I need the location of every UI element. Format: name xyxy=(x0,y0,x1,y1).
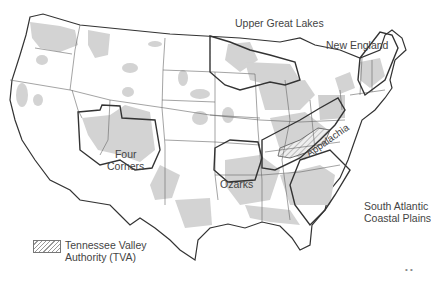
label-upper-great-lakes: Upper Great Lakes xyxy=(235,17,324,29)
legend-hatch-swatch xyxy=(33,240,61,253)
footer-mark: • • xyxy=(405,264,413,276)
legend-line1: Tennessee Valley xyxy=(65,239,147,251)
label-four-corners-line1: Four xyxy=(107,148,144,160)
label-ozarks: Ozarks xyxy=(220,178,253,190)
label-new-england: New England xyxy=(326,39,388,51)
label-south-atlantic: South Atlantic Coastal Plains xyxy=(364,200,431,224)
label-four-corners: Four Corners xyxy=(107,148,144,172)
legend-text: Tennessee Valley Authority (TVA) xyxy=(65,239,147,263)
legend: Tennessee Valley Authority (TVA) xyxy=(33,239,147,263)
label-south-atlantic-line1: South Atlantic xyxy=(364,200,431,212)
label-four-corners-line2: Corners xyxy=(107,160,144,172)
label-south-atlantic-line2: Coastal Plains xyxy=(364,212,431,224)
legend-line2: Authority (TVA) xyxy=(65,251,147,263)
